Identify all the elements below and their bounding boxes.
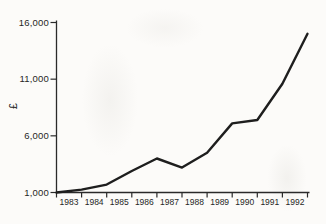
y-axis-tick-label: 6,000 (5, 130, 49, 142)
x-axis-year-label: 1992 (279, 197, 311, 208)
data-line (57, 34, 308, 193)
y-axis-tick-label: 16,000 (5, 17, 49, 29)
line-chart: £ 1,0006,00011,00016,0001983198419851986… (0, 0, 326, 224)
y-axis-tick-label: 1,000 (5, 187, 49, 199)
y-axis-title: £ (7, 103, 19, 109)
y-axis-tick-label: 11,000 (5, 73, 49, 85)
